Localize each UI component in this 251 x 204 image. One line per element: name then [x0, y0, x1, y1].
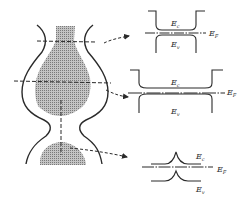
label-ef-bottom: EF: [216, 165, 227, 175]
shaded-electron-region: [35, 26, 91, 165]
label-ec-bottom: Ec: [195, 152, 205, 162]
label-ec-top: Ec: [170, 19, 180, 29]
label-ec-middle: Ec: [170, 78, 180, 88]
label-ev-top: Ev: [170, 40, 180, 50]
label-ef-top: EF: [208, 29, 219, 39]
diagram-canvas: Ec EF Ev Ec EF Ev Ec EF Ev: [0, 0, 251, 204]
label-ev-middle: Ev: [170, 107, 180, 117]
label-ef-middle: EF: [226, 88, 237, 98]
label-ev-bottom: Ev: [195, 185, 205, 195]
